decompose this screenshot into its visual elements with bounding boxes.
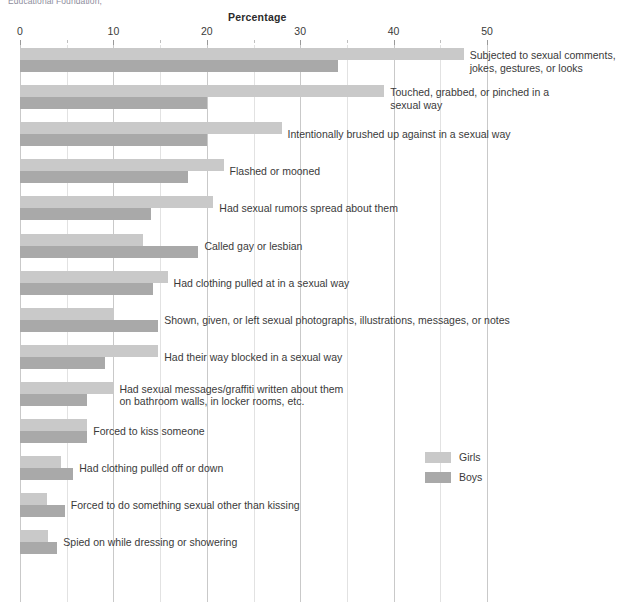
x-axis-tick-label: 30 (294, 25, 306, 37)
category-label: Touched, grabbed, or pinched in a sexual… (390, 86, 549, 111)
bar-boys (20, 431, 87, 443)
bar-boys (20, 171, 188, 183)
category-label: Had clothing pulled at in a sexual way (174, 277, 350, 290)
legend-label-boys: Boys (459, 471, 482, 483)
bar-girls (20, 159, 224, 171)
axis-tick (160, 40, 161, 43)
bar-girls (20, 308, 113, 320)
category-label: Called gay or lesbian (204, 240, 302, 253)
bar-girls (20, 456, 61, 468)
x-axis-tick-label: 50 (481, 25, 493, 37)
category-label: Spied on while dressing or showering (63, 536, 237, 549)
category-label: Shown, given, or left sexual photographs… (164, 314, 510, 327)
bar-boys (20, 542, 57, 554)
legend-swatch-girls (425, 452, 451, 463)
bar-girls (20, 271, 168, 283)
axis-tick (67, 40, 68, 43)
bar-girls (20, 345, 158, 357)
bar-girls (20, 85, 384, 97)
bar-boys (20, 468, 73, 480)
x-axis-tick-label: 20 (201, 25, 213, 37)
x-axis-tick-label: 0 (17, 25, 23, 37)
axis-tick (347, 40, 348, 43)
category-label: Intentionally brushed up against in a se… (288, 128, 511, 141)
x-axis-tick-label: 10 (108, 25, 120, 37)
plot-area: 01020304050Subjected to sexual comments,… (0, 0, 641, 615)
bar-girls (20, 48, 464, 60)
bar-girls (20, 530, 48, 542)
bar-boys (20, 208, 151, 220)
axis-tick (254, 40, 255, 43)
bar-boys (20, 246, 198, 258)
axis-tick (113, 40, 114, 45)
category-label: Subjected to sexual comments, jokes, ges… (470, 49, 616, 74)
category-label: Forced to kiss someone (93, 425, 204, 438)
bar-boys (20, 283, 153, 295)
bar-girls (20, 419, 87, 431)
bar-boys (20, 134, 207, 146)
bar-boys (20, 357, 105, 369)
bar-boys (20, 320, 158, 332)
legend-swatch-boys (425, 472, 451, 483)
bar-boys (20, 394, 87, 406)
bar-boys (20, 97, 207, 109)
category-label: Forced to do something sexual other than… (71, 499, 300, 512)
category-label: Had their way blocked in a sexual way (164, 351, 342, 364)
bar-girls (20, 122, 282, 134)
category-label: Had sexual messages/graffiti written abo… (119, 383, 343, 408)
axis-tick (207, 40, 208, 45)
bar-boys (20, 60, 338, 72)
bar-girls (20, 196, 213, 208)
bar-girls (20, 234, 143, 246)
bar-girls (20, 382, 113, 394)
legend-label-girls: Girls (459, 451, 481, 463)
category-label: Flashed or mooned (230, 165, 320, 178)
axis-tick (300, 40, 301, 45)
axis-tick (487, 40, 488, 45)
axis-tick (440, 40, 441, 43)
chart-page: Educational Foundation, Percentage 01020… (0, 0, 641, 615)
x-axis-tick-label: 40 (388, 25, 400, 37)
axis-tick (394, 40, 395, 45)
bar-girls (20, 493, 47, 505)
axis-tick (20, 40, 21, 45)
category-label: Had sexual rumors spread about them (219, 202, 398, 215)
category-label: Had clothing pulled off or down (79, 462, 223, 475)
bar-boys (20, 505, 65, 517)
